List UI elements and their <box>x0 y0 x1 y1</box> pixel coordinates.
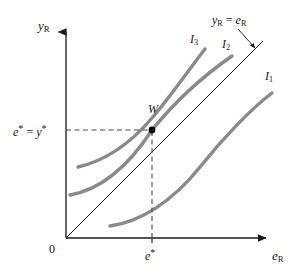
forty-five-degree-line <box>66 41 263 238</box>
curve-label-i1: I1 <box>265 70 273 84</box>
leader-line <box>238 29 255 48</box>
origin-label: 0 <box>49 243 55 255</box>
y-axis-label: yR <box>38 19 50 34</box>
equilibrium-point-w <box>149 127 156 134</box>
point-w-label: W <box>148 103 158 115</box>
diagonal-line-label: yR = eR <box>212 14 246 28</box>
curve-label-i3: I3 <box>190 33 198 47</box>
x-axis-label: eR <box>272 249 284 264</box>
indifference-curve-i3 <box>78 49 205 167</box>
x-axis-tick-label: e* <box>145 248 155 262</box>
curve-label-i2: I2 <box>222 38 230 52</box>
indifference-curve-i2 <box>70 56 232 195</box>
y-axis-tick-label: e* = y* <box>13 124 47 138</box>
economics-diagram: yR eR 0 e* = y* e* W yR = eR I3 I2 I1 <box>0 0 299 274</box>
